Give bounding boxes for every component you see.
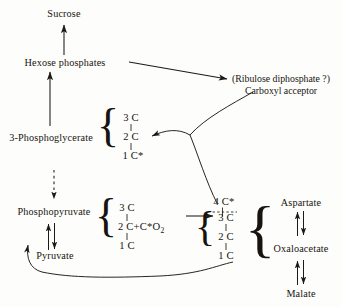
arrow-junction-to-pga <box>152 131 190 136</box>
label-acceptor-formula: (Ribulose diphosphate ?) <box>232 73 330 85</box>
label-pyr-c2-co2: 2 C+C*O2 <box>118 221 164 235</box>
label-oaa-c1: 1 C <box>218 250 234 261</box>
arrow-hexose-to-acceptor <box>129 62 227 79</box>
label-pga-c1: 1 C* <box>122 150 143 161</box>
curve-c4-to-junction <box>190 135 217 203</box>
label-phosphopyruvate: Phosphopyruvate <box>18 206 91 217</box>
pathway-canvas: { { { { Sucrose Hexose phosphates 3-Phos… <box>0 0 342 307</box>
brace-pga: { <box>97 100 119 151</box>
brace-c4-products: { <box>245 193 276 264</box>
label-hexose-phosphates: Hexose phosphates <box>25 57 106 68</box>
label-pga-c2: 2 C <box>123 131 139 142</box>
brace-oaa-group: { <box>195 203 215 249</box>
label-pyr-c1: 1 C <box>119 240 135 251</box>
label-pyruvate: Pyruvate <box>36 250 74 261</box>
curve-acceptor-to-junction <box>190 92 253 135</box>
label-oaa-c2: 2 C <box>218 231 234 242</box>
label-pga-c3: 3 C <box>123 112 139 123</box>
pathway-diagram: { { { { Sucrose Hexose phosphates 3-Phos… <box>0 0 342 307</box>
label-sucrose: Sucrose <box>47 8 81 19</box>
label-pyr-c2-text: 2 C+C*O <box>118 221 161 232</box>
label-c4-star: 4 C* <box>213 196 234 207</box>
label-malate: Malate <box>286 288 316 299</box>
label-pyr-c3: 3 C <box>119 202 135 213</box>
label-oaa-c3: 3 C <box>218 212 234 223</box>
label-aspartate: Aspartate <box>281 197 322 208</box>
label-oxaloacetate: Oxaloacetate <box>274 243 329 254</box>
label-carboxyl-acceptor: Carboxyl acceptor <box>245 85 318 96</box>
label-phosphoglycerate: 3-Phosphoglycerate <box>9 132 93 143</box>
brace-pyruvate-group: { <box>95 190 117 241</box>
label-pyr-c2-subscript: 2 <box>160 226 164 235</box>
